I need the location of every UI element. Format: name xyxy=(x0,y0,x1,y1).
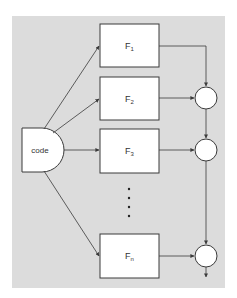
function-box-f2: F2 xyxy=(100,77,159,120)
combiner-2 xyxy=(195,139,217,161)
function-box-f1: F1 xyxy=(100,24,159,67)
code-label: code xyxy=(31,146,49,155)
fn-sub: n xyxy=(131,256,134,262)
combiner-3 xyxy=(195,245,217,267)
function-box-f3: F3 xyxy=(100,129,159,173)
function-box-fn: Fn xyxy=(100,234,159,278)
code-source-node: code xyxy=(22,128,64,172)
combiner-1 xyxy=(195,87,217,109)
diagram-canvas: code F1 F2 F3 Fn xyxy=(0,0,237,298)
